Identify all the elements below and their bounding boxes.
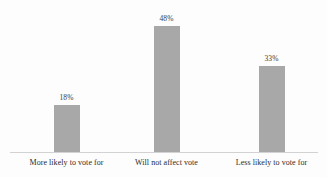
bar-group: 48% — [112, 0, 221, 152]
category-label: Less likely to vote for — [217, 159, 326, 168]
plot-area: 18% 48% 33% — [0, 0, 327, 152]
bar-value-label: 33% — [264, 55, 278, 63]
bar-stack: 48% — [154, 15, 180, 152]
bar-value-label: 48% — [159, 15, 173, 23]
bar-rect[interactable] — [154, 26, 180, 152]
bar-rect[interactable] — [259, 66, 285, 152]
bar-group: 33% — [217, 0, 326, 152]
category-label: More likely to vote for — [12, 159, 121, 168]
bar-stack: 18% — [54, 94, 80, 152]
bar-value-label: 18% — [59, 94, 73, 102]
bar-chart: 18% 48% 33% More likely to vote for Will… — [0, 0, 327, 177]
category-label: Will not affect vote — [112, 159, 221, 168]
category-axis: More likely to vote for Will not affect … — [0, 156, 327, 177]
bar-group: 18% — [12, 0, 121, 152]
x-axis-line — [10, 152, 318, 153]
bar-rect[interactable] — [54, 105, 80, 152]
bar-stack: 33% — [259, 55, 285, 152]
